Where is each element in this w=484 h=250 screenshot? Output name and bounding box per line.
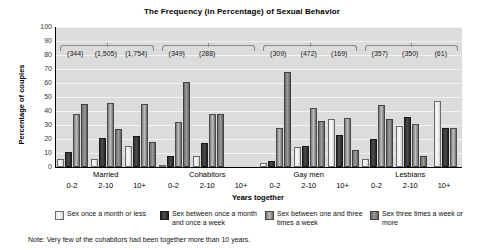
bar	[442, 128, 449, 167]
bar	[450, 128, 457, 167]
bar	[107, 103, 114, 167]
y-axis-label: Percentage of couples	[17, 40, 26, 170]
sample-size-bracket: (309)(472)(169)	[263, 45, 355, 65]
bar	[209, 114, 216, 167]
sample-size-value: (61)	[426, 50, 457, 57]
x-tick-cluster: 0-22-1010+	[157, 181, 259, 190]
sample-size-value: (1,505)	[91, 50, 122, 57]
bar	[362, 159, 369, 167]
bar	[125, 146, 132, 167]
sample-size-value: (357)	[365, 50, 396, 57]
bar	[268, 161, 275, 167]
sample-size-values: (357)(350)(61)	[365, 50, 457, 57]
y-tick-30: 30	[30, 121, 52, 128]
bar	[344, 118, 351, 167]
bar	[167, 156, 174, 167]
sample-size-values: (309)(472)(169)	[263, 50, 355, 57]
legend-label: Sex between one and three times a week	[277, 209, 368, 228]
bar	[141, 104, 148, 167]
legend-item[interactable]: Sex between one and three times a week	[265, 209, 368, 228]
y-tick-20: 20	[30, 135, 52, 142]
bar	[302, 146, 309, 167]
bar	[412, 124, 419, 167]
x-tick-label: 0-2	[258, 181, 292, 190]
sample-size-value: (344)	[60, 50, 91, 57]
x-tick-label: 10+	[326, 181, 360, 190]
x-tick-label: 0-2	[55, 181, 89, 190]
bar	[434, 101, 441, 167]
legend-label: Sex once a month or less	[67, 209, 146, 218]
bar	[201, 143, 208, 167]
legend-swatch-icon	[55, 211, 64, 220]
x-tick-label: 2-10	[292, 181, 326, 190]
bracket-tick	[411, 43, 412, 47]
legend-item[interactable]: Sex three times a week or more	[370, 209, 473, 228]
x-tick-cluster: 0-22-1010+	[360, 181, 462, 190]
bar	[310, 108, 317, 167]
y-tick-60: 60	[30, 79, 52, 86]
legend-label: Sex between once a month and once a week	[172, 209, 263, 228]
chart-title: The Frequency (in Percentage) of Sexual …	[0, 7, 484, 16]
bar	[183, 82, 190, 167]
sample-size-brackets: (344)(1,505)(1,754)(349)(288)(309)(472)(…	[55, 45, 461, 65]
x-tick-cluster: 0-22-1010+	[258, 181, 360, 190]
x-tick-label: 10+	[224, 181, 258, 190]
x-tick-label: 0-2	[360, 181, 394, 190]
bar	[65, 152, 72, 167]
legend-swatch-icon	[160, 211, 169, 220]
sample-size-bracket: (357)(350)(61)	[365, 45, 457, 65]
y-tick-40: 40	[30, 107, 52, 114]
bar	[99, 138, 106, 167]
x-group-label: Married	[55, 170, 157, 179]
bar	[336, 135, 343, 167]
bar	[159, 165, 166, 167]
x-group-label: Gay men	[258, 170, 360, 179]
x-tick-cluster: 0-22-1010+	[55, 181, 157, 190]
sample-size-value: (1,754)	[121, 50, 152, 57]
bar	[91, 159, 98, 167]
legend-item[interactable]: Sex once a month or less	[55, 209, 158, 228]
bar	[284, 72, 291, 167]
chart-note: Note: Very few of the cohabitors had bee…	[28, 236, 250, 243]
bar	[57, 159, 64, 167]
x-axis-title: Years together	[55, 193, 461, 202]
y-tick-100: 100	[30, 23, 52, 30]
bar	[276, 128, 283, 167]
bar	[294, 147, 301, 167]
chart-legend: Sex once a month or lessSex between once…	[55, 209, 475, 228]
bar	[115, 129, 122, 167]
bracket-tick	[208, 43, 209, 47]
x-tick-label: 0-2	[157, 181, 191, 190]
x-group-label: Cohabitors	[157, 170, 259, 179]
y-tick-80: 80	[30, 51, 52, 58]
x-axis-tick-labels: 0-22-1010+0-22-1010+0-22-1010+0-22-1010+	[55, 181, 461, 190]
bar	[420, 156, 427, 167]
bar	[217, 114, 224, 167]
sample-size-value: (349)	[162, 50, 193, 57]
bar	[386, 119, 393, 167]
legend-item[interactable]: Sex between once a month and once a week	[160, 209, 263, 228]
y-tick-0: 0	[30, 163, 52, 170]
x-tick-label: 2-10	[393, 181, 427, 190]
sample-size-value: (288)	[192, 50, 223, 57]
sample-size-value: (350)	[395, 50, 426, 57]
bar	[328, 119, 335, 167]
x-tick-label: 10+	[427, 181, 461, 190]
y-tick-90: 90	[30, 37, 52, 44]
bar	[73, 114, 80, 167]
bar	[149, 142, 156, 167]
bar	[318, 121, 325, 167]
bar	[352, 150, 359, 167]
sample-size-value: (472)	[294, 50, 325, 57]
sample-size-bracket: (344)(1,505)(1,754)	[60, 45, 152, 65]
x-tick-label: 10+	[123, 181, 157, 190]
bracket-tick	[107, 43, 108, 47]
sample-size-values: (344)(1,505)(1,754)	[60, 50, 152, 57]
bar	[81, 104, 88, 167]
sample-size-bracket: (349)(288)	[162, 45, 254, 65]
sample-size-value: (169)	[324, 50, 355, 57]
bracket-tick	[310, 43, 311, 47]
y-tick-10: 10	[30, 149, 52, 156]
x-axis-group-labels: MarriedCohabitorsGay menLesbians	[55, 170, 461, 179]
sample-size-value: (309)	[263, 50, 294, 57]
